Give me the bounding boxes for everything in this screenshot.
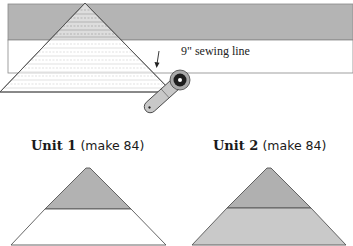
unit-1-top-piece: [45, 168, 131, 209]
unit-2-title: Unit 2 (make 84): [213, 138, 326, 153]
unit-2-diagram: [192, 168, 346, 245]
unit-1-quantity: (make 84): [80, 138, 144, 153]
unit-1-title: Unit 1 (make 84): [31, 138, 144, 153]
unit-2-bottom-piece: [192, 208, 346, 245]
diagram-canvas: [0, 0, 353, 246]
unit-2-quantity: (make 84): [262, 138, 326, 153]
unit-1-name: Unit 1: [31, 138, 76, 153]
unit-2-top-piece: [227, 168, 311, 208]
unit-2-name: Unit 2: [213, 138, 258, 153]
unit-1-bottom-piece: [11, 209, 166, 245]
unit-1-diagram: [11, 168, 166, 245]
sewing-line-label: 9" sewing line: [181, 44, 250, 59]
